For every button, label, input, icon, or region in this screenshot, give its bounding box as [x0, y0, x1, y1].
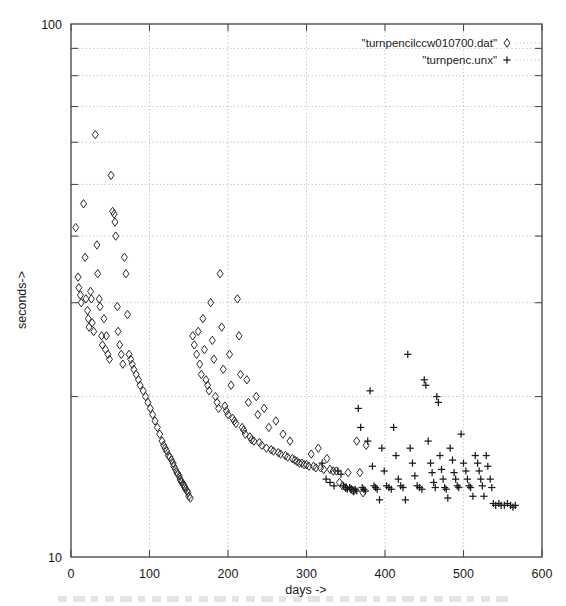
data-point-diamond: [315, 444, 321, 452]
data-point-diamond: [114, 302, 120, 310]
y-axis-title: seconds->: [15, 271, 29, 329]
data-point-plus: [479, 482, 486, 489]
data-point-diamond: [227, 350, 233, 358]
data-point-plus: [449, 456, 456, 463]
data-point-diamond: [354, 437, 360, 445]
x-tick-label: 600: [532, 567, 553, 581]
y-tick-label: 10: [48, 551, 62, 565]
data-point-diamond: [200, 314, 206, 322]
data-point-plus: [326, 479, 333, 486]
data-point-diamond: [198, 370, 204, 378]
data-point-diamond: [244, 376, 250, 384]
data-point-plus: [433, 393, 440, 400]
data-point-diamond: [123, 270, 129, 278]
data-point-plus: [436, 452, 443, 459]
y-axis-tick-labels: 10010: [41, 18, 62, 565]
data-point-diamond: [211, 355, 217, 363]
data-point-plus: [404, 351, 411, 358]
data-point-plus: [355, 405, 362, 412]
data-point-plus: [435, 399, 442, 406]
data-point-diamond: [121, 253, 127, 261]
data-point-diamond: [308, 450, 314, 458]
data-point-diamond: [112, 218, 118, 226]
grid-layer: [71, 24, 542, 557]
data-point-diamond: [228, 381, 234, 389]
data-point-diamond: [191, 341, 197, 349]
data-point-plus: [480, 493, 487, 500]
data-point-plus: [390, 424, 397, 431]
data-point-diamond: [118, 350, 124, 358]
data-point-diamond: [81, 200, 87, 208]
data-point-diamond: [345, 468, 351, 476]
data-point-diamond: [190, 332, 196, 340]
x-tick-label: 400: [375, 567, 396, 581]
data-point-diamond: [201, 345, 207, 353]
data-point-diamond: [96, 295, 102, 303]
data-point-diamond: [77, 291, 83, 299]
y-tick-label: 100: [41, 18, 62, 32]
x-tick-label: 500: [453, 567, 474, 581]
data-point-diamond: [234, 295, 240, 303]
data-point-plus: [409, 460, 416, 467]
data-point-diamond: [92, 130, 98, 138]
data-point-plus: [395, 476, 402, 483]
data-point-plus: [323, 476, 330, 483]
data-point-diamond: [95, 270, 101, 278]
data-point-plus: [467, 484, 474, 491]
data-point-plus: [447, 445, 454, 452]
data-point-plus: [427, 460, 434, 467]
data-point-diamond: [287, 437, 293, 445]
data-point-plus: [454, 482, 461, 489]
data-point-diamond: [236, 332, 242, 340]
data-point-plus: [421, 376, 428, 383]
data-point-plus: [441, 484, 448, 491]
data-point-diamond: [273, 417, 279, 425]
data-point-plus: [429, 469, 436, 476]
data-point-diamond: [217, 270, 223, 278]
x-tick-label: 0: [68, 567, 75, 581]
data-point-diamond: [101, 314, 107, 322]
data-point-diamond: [504, 39, 510, 47]
data-point-plus: [503, 56, 510, 63]
data-point-diamond: [261, 404, 267, 412]
data-point-plus: [460, 460, 467, 467]
data-point-plus: [477, 476, 484, 483]
data-point-plus: [487, 476, 494, 483]
data-point-diamond: [76, 284, 82, 292]
data-point-plus: [483, 452, 490, 459]
data-point-plus: [469, 493, 476, 500]
data-point-diamond: [88, 287, 94, 295]
data-point-diamond: [82, 253, 88, 261]
data-point-diamond: [194, 350, 200, 358]
data-point-plus: [402, 496, 409, 503]
x-tick-label: 200: [218, 567, 239, 581]
x-axis-tick-labels: 0100200300400500600: [68, 567, 553, 581]
legend-label: "turnpencilccw010700.dat": [362, 37, 497, 49]
data-point-plus: [484, 463, 491, 470]
data-point-diamond: [219, 323, 225, 331]
data-point-diamond: [238, 370, 244, 378]
data-point-plus: [444, 494, 451, 501]
data-point-diamond: [73, 223, 79, 231]
data-point-plus: [430, 479, 437, 486]
data-point-plus: [376, 496, 383, 503]
data-point-plus: [392, 452, 399, 459]
data-point-plus: [443, 486, 450, 493]
x-tick-label: 300: [296, 567, 317, 581]
data-point-plus: [476, 467, 483, 474]
data-point-plus: [455, 484, 462, 491]
legend: "turnpencilccw010700.dat""turnpenc.unx": [362, 37, 540, 66]
data-point-plus: [357, 424, 364, 431]
data-point-diamond: [280, 430, 286, 438]
data-point-diamond: [117, 341, 123, 349]
data-point-plus: [372, 484, 379, 491]
x-tick-label: 100: [139, 567, 160, 581]
data-point-plus: [472, 452, 479, 459]
data-point-diamond: [220, 365, 226, 373]
data-point-diamond: [94, 241, 100, 249]
data-point-diamond: [266, 423, 272, 431]
data-point-plus: [452, 476, 459, 483]
data-point-plus: [369, 463, 376, 470]
data-point-plus: [422, 382, 429, 389]
data-point-diamond: [245, 398, 251, 406]
